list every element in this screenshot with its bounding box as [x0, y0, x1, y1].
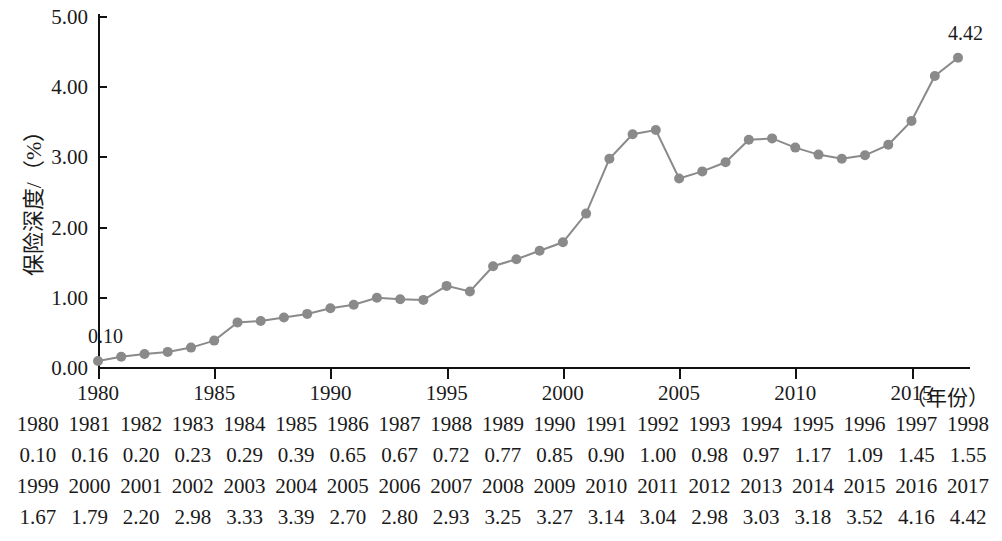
- point-value-label: 0.10: [88, 325, 123, 348]
- table-cell: 1993: [684, 409, 736, 440]
- data-point-marker: [697, 166, 707, 176]
- data-point-marker: [953, 53, 963, 63]
- table-cell: 1983: [167, 409, 219, 440]
- data-table: 1980198119821983198419851986198719881989…: [12, 409, 994, 533]
- table-row: 0.100.160.200.230.290.390.650.670.720.77…: [12, 440, 994, 471]
- table-row: 1.671.792.202.983.333.392.702.802.933.25…: [12, 502, 994, 533]
- data-point-marker: [349, 300, 359, 310]
- table-cell: 2003: [219, 471, 271, 502]
- table-cell: 0.65: [322, 440, 374, 471]
- data-point-marker: [860, 150, 870, 160]
- data-point-marker: [535, 246, 545, 256]
- table-cell: 2008: [477, 471, 529, 502]
- data-point-marker: [186, 343, 196, 353]
- table-cell: 0.85: [529, 440, 581, 471]
- data-point-marker: [93, 356, 103, 366]
- table-cell: 3.27: [529, 502, 581, 533]
- table-cell: 1.45: [890, 440, 942, 471]
- data-point-marker: [744, 135, 754, 145]
- series-polyline: [98, 58, 958, 361]
- table-cell: 1986: [322, 409, 374, 440]
- table-cell: 2015: [839, 471, 891, 502]
- data-point-marker: [558, 237, 568, 247]
- data-point-marker: [325, 303, 335, 313]
- table-cell: 1.79: [64, 502, 116, 533]
- table-cell: 4.16: [890, 502, 942, 533]
- table-cell: 3.33: [219, 502, 271, 533]
- table-cell: 0.98: [684, 440, 736, 471]
- data-point-marker: [233, 317, 243, 327]
- table-cell: 4.42: [942, 502, 994, 533]
- data-point-marker: [488, 261, 498, 271]
- data-point-marker: [442, 281, 452, 291]
- table-cell: 2.20: [115, 502, 167, 533]
- data-point-marker: [604, 154, 614, 164]
- table-cell: 0.23: [167, 440, 219, 471]
- table-cell: 2007: [425, 471, 477, 502]
- table-cell: 3.52: [839, 502, 891, 533]
- data-point-marker: [674, 174, 684, 184]
- table-cell: 3.04: [632, 502, 684, 533]
- table-cell: 0.77: [477, 440, 529, 471]
- table-cell: 2005: [322, 471, 374, 502]
- data-point-marker: [418, 295, 428, 305]
- table-cell: 1.00: [632, 440, 684, 471]
- figure-root: 保险深度/（%） 0.001.002.003.004.005.00 198019…: [0, 0, 1002, 541]
- data-point-marker: [651, 125, 661, 135]
- table-cell: 0.10: [12, 440, 64, 471]
- data-point-marker: [837, 154, 847, 164]
- data-point-marker: [302, 309, 312, 319]
- table-cell: 2001: [115, 471, 167, 502]
- data-point-marker: [581, 209, 591, 219]
- table-cell: 3.03: [735, 502, 787, 533]
- table-cell: 2016: [890, 471, 942, 502]
- data-point-marker: [163, 347, 173, 357]
- data-point-marker: [209, 336, 219, 346]
- table-cell: 1981: [64, 409, 116, 440]
- table-cell: 1992: [632, 409, 684, 440]
- table-cell: 1997: [890, 409, 942, 440]
- point-value-label: 4.42: [948, 22, 983, 45]
- table-cell: 0.67: [374, 440, 426, 471]
- table-cell: 0.90: [580, 440, 632, 471]
- data-point-marker: [628, 129, 638, 139]
- table-cell: 2004: [270, 471, 322, 502]
- table-cell: 0.20: [115, 440, 167, 471]
- table-cell: 1998: [942, 409, 994, 440]
- table-cell: 3.25: [477, 502, 529, 533]
- data-point-marker: [907, 116, 917, 126]
- data-point-marker: [256, 316, 266, 326]
- data-point-marker: [116, 352, 126, 362]
- table-cell: 1994: [735, 409, 787, 440]
- table-cell: 1995: [787, 409, 839, 440]
- table-cell: 1987: [374, 409, 426, 440]
- table-cell: 2011: [632, 471, 684, 502]
- data-point-marker: [372, 293, 382, 303]
- table-cell: 1980: [12, 409, 64, 440]
- line-chart: 保险深度/（%） 0.001.002.003.004.005.00 198019…: [0, 0, 1002, 400]
- table-cell: 1991: [580, 409, 632, 440]
- table-cell: 1.09: [839, 440, 891, 471]
- table-cell: 1985: [270, 409, 322, 440]
- table-row: 1999200020012002200320042005200620072008…: [12, 471, 994, 502]
- table-cell: 2.98: [684, 502, 736, 533]
- data-point-marker: [814, 150, 824, 160]
- table-cell: 1996: [839, 409, 891, 440]
- data-point-marker: [511, 254, 521, 264]
- data-point-marker: [140, 349, 150, 359]
- table-cell: 2000: [64, 471, 116, 502]
- data-point-marker: [465, 287, 475, 297]
- data-table-block: 1980198119821983198419851986198719881989…: [0, 409, 1002, 541]
- table-cell: 2.98: [167, 502, 219, 533]
- table-cell: 3.18: [787, 502, 839, 533]
- table-cell: 2009: [529, 471, 581, 502]
- table-cell: 2017: [942, 471, 994, 502]
- table-cell: 0.72: [425, 440, 477, 471]
- table-cell: 1982: [115, 409, 167, 440]
- data-point-marker: [721, 157, 731, 167]
- table-cell: 2002: [167, 471, 219, 502]
- table-cell: 1988: [425, 409, 477, 440]
- table-cell: 0.16: [64, 440, 116, 471]
- table-cell: 2.80: [374, 502, 426, 533]
- data-point-marker: [279, 313, 289, 323]
